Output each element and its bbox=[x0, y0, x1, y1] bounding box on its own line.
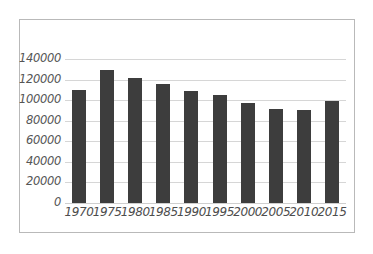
bar bbox=[213, 95, 227, 204]
bar bbox=[72, 90, 86, 203]
x-tick-label: 2015 bbox=[317, 206, 346, 218]
chart-figure: 020000400006000080000100000120000140000 … bbox=[19, 19, 355, 233]
x-tick-label: 2010 bbox=[289, 206, 318, 218]
y-tick-label: 60000 bbox=[26, 136, 61, 148]
y-tick-label: 80000 bbox=[26, 115, 61, 127]
x-tick-label: 1980 bbox=[121, 206, 150, 218]
bar bbox=[297, 110, 311, 203]
y-tick-label: 140000 bbox=[19, 53, 61, 65]
x-tick-label: 1985 bbox=[149, 206, 178, 218]
y-tick-label: 100000 bbox=[19, 94, 61, 106]
bar-series bbox=[65, 59, 346, 203]
y-tick-label: 120000 bbox=[19, 74, 61, 86]
y-tick-label: 0 bbox=[54, 197, 61, 209]
y-tick-label: 40000 bbox=[26, 156, 61, 168]
bar bbox=[325, 101, 339, 203]
bar bbox=[241, 103, 255, 203]
x-tick-label: 2005 bbox=[261, 206, 290, 218]
y-tick-label: 20000 bbox=[26, 177, 61, 189]
x-tick-label: 2000 bbox=[233, 206, 262, 218]
bar bbox=[156, 84, 170, 203]
bar bbox=[128, 78, 142, 203]
axis-baseline bbox=[65, 203, 346, 204]
bar bbox=[100, 70, 114, 203]
x-tick-label: 1990 bbox=[177, 206, 206, 218]
y-axis-tick-labels: 020000400006000080000100000120000140000 bbox=[20, 59, 61, 203]
x-tick-label: 1995 bbox=[205, 206, 234, 218]
x-tick-label: 1970 bbox=[65, 206, 94, 218]
x-axis-tick-labels: 1970197519801985199019952000200520102015 bbox=[65, 206, 346, 228]
bar bbox=[184, 91, 198, 203]
x-tick-label: 1975 bbox=[93, 206, 122, 218]
bar bbox=[269, 109, 283, 203]
